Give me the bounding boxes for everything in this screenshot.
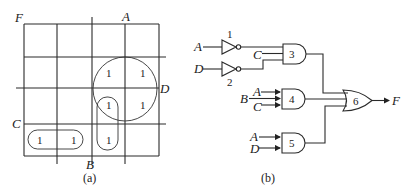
karnaugh-map: F A D C B 1 1 1 1 1 1 1 (a) xyxy=(12,9,170,185)
circuit-output-label: F xyxy=(391,93,401,108)
g6-id: 6 xyxy=(353,95,359,107)
inverter-2-icon xyxy=(222,62,236,76)
kmap-cell: 1 xyxy=(106,134,112,146)
kmap-cell: 1 xyxy=(140,99,146,111)
kmap-label-a: A xyxy=(121,9,130,24)
kmap-cell: 1 xyxy=(106,67,112,79)
kmap-function-label: F xyxy=(14,10,24,25)
g3-id: 3 xyxy=(289,48,295,60)
g4-id: 4 xyxy=(289,93,295,105)
g5-id: 5 xyxy=(289,137,295,149)
g3-c-label: C xyxy=(253,47,262,62)
inverter-1-icon xyxy=(222,40,236,54)
kmap-cell: 1 xyxy=(106,99,112,111)
circuit-caption: (b) xyxy=(261,171,275,185)
logic-circuit: A 1 D 2 C 3 A B C 4 A D 5 xyxy=(193,28,401,185)
kmap-label-c: C xyxy=(12,116,21,131)
g4-c-label: C xyxy=(253,99,262,114)
g4-a-label: A xyxy=(252,84,261,99)
kmap-cell: 1 xyxy=(71,134,77,146)
kmap-cell: 1 xyxy=(140,67,146,79)
g5-d-label: D xyxy=(249,141,260,156)
and-gate-3-icon xyxy=(283,44,306,64)
kmap-cell: 1 xyxy=(37,134,43,146)
inv1-id: 1 xyxy=(227,28,233,40)
kmap-label-b: B xyxy=(86,157,94,172)
inv2-id: 2 xyxy=(227,76,233,88)
kmap-label-d: D xyxy=(159,81,170,96)
kmap-caption: (a) xyxy=(83,171,96,185)
g4-b-label: B xyxy=(240,91,248,106)
figure: F A D C B 1 1 1 1 1 1 1 (a) A 1 D 2 xyxy=(0,0,412,194)
inv1-input-label: A xyxy=(193,39,202,54)
inv2-input-label: D xyxy=(193,61,204,76)
